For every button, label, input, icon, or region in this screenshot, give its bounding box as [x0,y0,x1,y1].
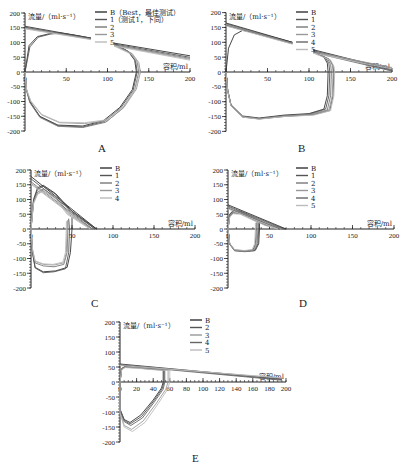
x-tick-label: 120 [214,385,225,393]
x-tick-label: 100 [306,232,317,240]
x-tick-label: 180 [264,385,275,393]
y-axis-label: 流量/（ml·s⁻¹） [34,169,86,178]
legend: B12345 [296,165,316,211]
x-tick-label: 150 [345,75,356,83]
y-tick-label: -100 [208,98,221,106]
x-tick-label: 50 [266,232,274,240]
y-tick-label: -50 [17,240,27,248]
y-tick-label: -50 [212,83,222,91]
series-5 [226,26,392,119]
x-tick-label: 200 [389,232,400,240]
series-4 [31,184,90,264]
y-tick-label: 150 [105,334,116,342]
legend-entry: 1（测试1，下同） [110,15,168,24]
y-axis-label: 流量/（ml·s⁻¹） [231,169,283,178]
y-tick-label: -200 [7,128,20,136]
y-tick-label: -50 [214,240,224,248]
chart-panel-D: 200150100500-50-100-150-200050100150200流… [210,165,400,293]
figure-canvas: 200150100500-50-100-150-200050100150200流… [0,0,404,470]
y-tick-label: 200 [213,167,224,175]
y-tick-label: 50 [108,364,116,372]
x-tick-label: 200 [190,232,201,240]
y-tick-label: -200 [210,285,223,293]
legend: B1234 [100,165,120,203]
y-tick-label: -100 [210,255,223,263]
x-axis-label: 容积/ml [163,62,189,71]
y-tick-label: -100 [13,255,26,263]
y-tick-label: 150 [213,181,224,189]
y-tick-label: -50 [11,83,21,91]
panel-label-E: E [192,452,199,464]
y-tick-label: 200 [16,167,27,175]
x-tick-label: 100 [304,75,315,83]
x-tick-label: 50 [63,75,71,83]
y-tick-label: -200 [13,285,26,293]
legend: B12345 [296,9,316,55]
chart-panel-E: 200150100500-50-100-150-2000204060801001… [102,317,292,447]
y-tick-label: -100 [7,98,20,106]
y-tick-label: -150 [102,424,115,432]
y-tick-label: 200 [211,9,222,17]
x-tick-label: 140 [231,385,242,393]
x-axis-label: 容积/ml [367,219,393,228]
x-tick-label: 50 [264,75,272,83]
y-tick-label: 50 [19,211,27,219]
panel-label-C: C [91,297,98,309]
series-5 [120,366,282,432]
y-tick-label: -100 [102,409,115,417]
y-tick-label: -50 [106,394,116,402]
x-tick-label: 200 [281,385,292,393]
y-tick-label: 150 [10,24,21,32]
legend: B2345 [190,317,210,355]
legend-entry: 4 [115,195,120,203]
x-tick-label: 100 [108,232,119,240]
y-tick-label: -150 [13,270,26,278]
x-tick-label: 160 [248,385,259,393]
y-tick-label: 0 [17,69,21,77]
y-tick-label: 200 [105,319,116,327]
y-tick-label: 100 [213,196,224,204]
series-3 [120,365,282,430]
panel-label-A: A [98,142,106,154]
y-tick-label: 50 [13,54,21,62]
y-axis-label: 流量/（ml·s⁻¹） [229,12,281,21]
x-tick-label: 150 [347,232,358,240]
y-tick-label: 150 [16,181,27,189]
x-tick-label: 100 [102,75,113,83]
panel-label-B: B [298,142,305,154]
y-tick-label: -150 [7,113,20,121]
panel-label-D: D [299,297,307,309]
legend: B（Best，最佳测试）1（测试1，下同）235 [95,8,180,47]
x-tick-label: 20 [133,385,141,393]
legend-entry: 5 [110,39,114,47]
x-tick-label: 40 [150,385,158,393]
chart-panel-B: 200150100500-50-100-150-200050100150200流… [208,9,398,136]
series-4 [228,208,280,251]
x-tick-label: 80 [183,385,191,393]
x-tick-label: 200 [185,75,196,83]
legend-entry: 5 [205,347,209,355]
x-tick-label: 100 [198,385,209,393]
y-tick-label: -150 [208,113,221,121]
y-tick-label: 150 [211,24,222,32]
y-tick-label: 50 [214,54,222,62]
series-4 [120,365,282,425]
legend-entry: 5 [311,46,315,54]
y-tick-label: 100 [10,39,21,47]
chart-panel-A: 200150100500-50-100-150-200050100150200流… [7,8,196,136]
y-tick-label: -150 [210,270,223,278]
y-tick-label: 50 [216,211,224,219]
x-axis-label: 容积/ml [168,219,194,228]
x-tick-label: 200 [387,75,398,83]
y-tick-label: 100 [105,349,116,357]
y-axis-label: 流量/（ml·s⁻¹） [123,321,175,330]
x-tick-label: 150 [149,232,160,240]
y-tick-label: -200 [208,128,221,136]
y-axis-label: 流量/（ml·s⁻¹） [28,12,80,21]
y-tick-label: 0 [218,69,222,77]
legend-entry: 5 [311,202,315,210]
y-tick-label: 0 [112,379,116,387]
y-tick-label: -200 [102,439,115,447]
y-tick-label: 0 [23,226,27,234]
y-tick-label: 100 [16,196,27,204]
